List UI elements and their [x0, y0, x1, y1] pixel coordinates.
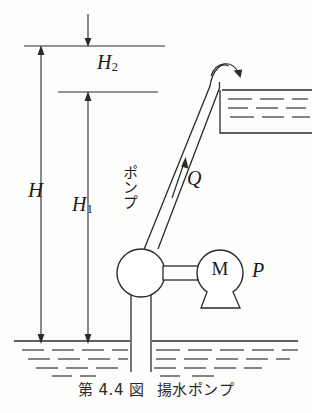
lower-water-hatch [22, 350, 298, 376]
label-H1-subscript: 1 [87, 202, 93, 216]
label-flow-rate: Q [187, 168, 201, 188]
motor-base [201, 292, 240, 308]
label-static-head-upper: H2 [97, 52, 118, 74]
upper-reservoir-water [228, 99, 310, 117]
figure-caption: 第 4.4 図揚水ポンプ [0, 378, 312, 399]
upper-reservoir [220, 90, 312, 133]
figure-container: H H1 H2 Q M P ポンプ 第 4.4 図揚水ポンプ [0, 0, 312, 413]
label-motor: M [200, 258, 240, 280]
caption-title: 揚水ポンプ [157, 381, 235, 399]
label-pump-japanese: ポンプ [115, 165, 137, 210]
coupling-shaft [163, 266, 198, 280]
label-H2-base: H [97, 51, 111, 73]
caption-number: 第 4.4 図 [78, 381, 145, 399]
label-total-head: H [28, 180, 43, 201]
top-inflow-arrow [85, 14, 92, 47]
pump-diagram [0, 0, 312, 413]
dimension-H1 [85, 91, 92, 344]
label-power: P [252, 260, 264, 280]
pump-body [117, 249, 165, 297]
suction-pipe [131, 295, 151, 372]
label-H1-base: H [72, 193, 86, 215]
label-H2-subscript: 2 [112, 60, 118, 74]
label-static-head-lower: H1 [72, 194, 93, 216]
